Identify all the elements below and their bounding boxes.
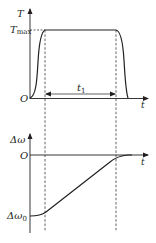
origin-label-bottom: O [20, 150, 28, 161]
torque-speed-diagram: T Tmax O t t1 Δω O t Δω0 [0, 0, 156, 243]
delta-omega-axis-label: Δω [9, 134, 25, 145]
time-axis-label-bottom: t [141, 157, 145, 167]
speed-deviation-plot: Δω O t Δω0 [6, 134, 148, 233]
torque-plot: T Tmax O t t1 [10, 8, 148, 110]
t1-label: t1 [77, 82, 86, 95]
origin-label-top: O [20, 93, 28, 104]
tmax-label: Tmax [10, 24, 31, 36]
t-axis-label: T [17, 8, 25, 19]
time-axis-label-top: t [141, 100, 145, 110]
delta-omega0-label: Δω0 [6, 210, 27, 223]
